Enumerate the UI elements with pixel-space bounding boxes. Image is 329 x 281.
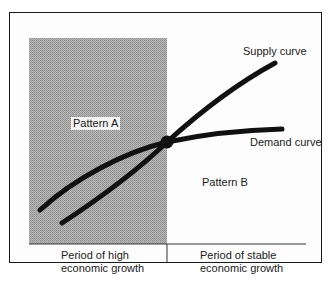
period-stable-line-1: Period of stable <box>200 249 283 262</box>
period-high-line-2: economic growth <box>61 262 144 275</box>
equilibrium-point <box>161 136 174 149</box>
period-high-growth-label: Period of high economic growth <box>61 249 144 275</box>
pattern-a-label: Pattern A <box>71 117 120 130</box>
supply-curve-label: Supply curve <box>243 45 307 58</box>
demand-curve-label: Demand curve <box>250 136 322 149</box>
pattern-b-label: Pattern B <box>202 176 248 189</box>
period-stable-line-2: economic growth <box>200 262 283 275</box>
period-stable-growth-label: Period of stable economic growth <box>200 249 283 275</box>
high-growth-shaded-region <box>29 38 167 244</box>
period-high-line-1: Period of high <box>61 249 144 262</box>
